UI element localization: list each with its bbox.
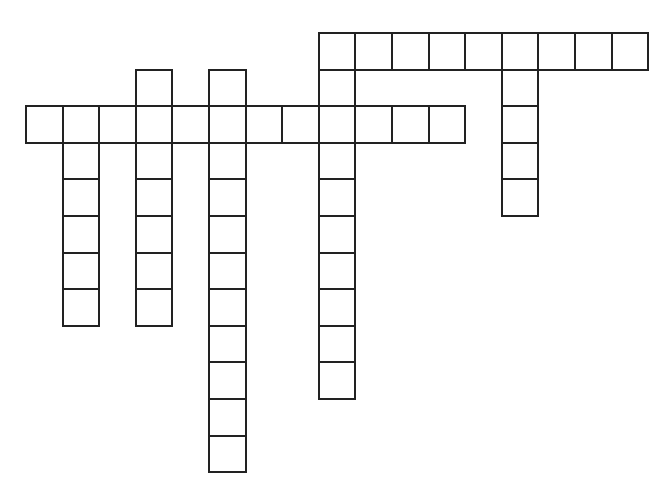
crossword-cell[interactable] (208, 398, 247, 437)
crossword-cell[interactable] (318, 361, 356, 400)
crossword-cell[interactable] (354, 105, 393, 144)
crossword-cell[interactable] (318, 178, 356, 217)
crossword-cell[interactable] (318, 32, 356, 71)
crossword-cell[interactable] (428, 32, 466, 71)
crossword-cell[interactable] (501, 69, 539, 107)
crossword-cell[interactable] (464, 32, 503, 71)
crossword-cell[interactable] (501, 105, 539, 144)
crossword-cell[interactable] (501, 178, 539, 217)
crossword-cell[interactable] (208, 105, 247, 144)
crossword-cell[interactable] (171, 105, 210, 144)
crossword-cell[interactable] (208, 178, 247, 217)
crossword-cell[interactable] (135, 288, 173, 327)
crossword-cell[interactable] (135, 178, 173, 217)
crossword-cell[interactable] (245, 105, 283, 144)
crossword-cell[interactable] (354, 32, 393, 71)
crossword-cell[interactable] (574, 32, 613, 71)
crossword-cell[interactable] (281, 105, 320, 144)
crossword-cell[interactable] (62, 105, 100, 144)
crossword-cell[interactable] (318, 215, 356, 254)
crossword-cell[interactable] (135, 215, 173, 254)
crossword-grid (0, 0, 665, 499)
crossword-cell[interactable] (318, 69, 356, 107)
crossword-cell[interactable] (391, 32, 430, 71)
crossword-cell[interactable] (611, 32, 649, 71)
crossword-cell[interactable] (318, 252, 356, 290)
crossword-cell[interactable] (208, 252, 247, 290)
crossword-cell[interactable] (62, 142, 100, 180)
crossword-cell[interactable] (135, 252, 173, 290)
crossword-cell[interactable] (208, 435, 247, 473)
crossword-cell[interactable] (318, 142, 356, 180)
crossword-cell[interactable] (62, 178, 100, 217)
crossword-cell[interactable] (208, 288, 247, 327)
crossword-cell[interactable] (501, 32, 539, 71)
crossword-cell[interactable] (208, 142, 247, 180)
crossword-cell[interactable] (318, 105, 356, 144)
crossword-cell[interactable] (428, 105, 466, 144)
crossword-cell[interactable] (318, 325, 356, 363)
crossword-cell[interactable] (501, 142, 539, 180)
crossword-cell[interactable] (135, 142, 173, 180)
crossword-cell[interactable] (318, 288, 356, 327)
crossword-cell[interactable] (208, 215, 247, 254)
crossword-cell[interactable] (62, 252, 100, 290)
crossword-cell[interactable] (537, 32, 576, 71)
crossword-cell[interactable] (62, 288, 100, 327)
crossword-cell[interactable] (208, 325, 247, 363)
crossword-cell[interactable] (391, 105, 430, 144)
crossword-cell[interactable] (208, 361, 247, 400)
crossword-cell[interactable] (25, 105, 64, 144)
crossword-cell[interactable] (98, 105, 137, 144)
crossword-cell[interactable] (208, 69, 247, 107)
crossword-cell[interactable] (135, 69, 173, 107)
crossword-cell[interactable] (135, 105, 173, 144)
crossword-cell[interactable] (62, 215, 100, 254)
